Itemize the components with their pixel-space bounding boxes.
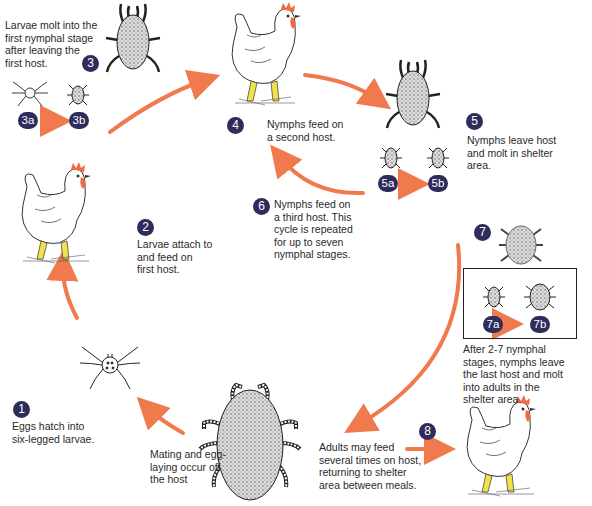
larva-icon-3a	[12, 82, 48, 106]
badge-3a: 3a	[18, 112, 38, 129]
nymph-icon-5a	[380, 148, 402, 168]
badge-7a: 7a	[483, 316, 503, 333]
chicken-icon-first-host	[22, 162, 91, 263]
badge-5b: 5b	[428, 175, 448, 192]
chicken-icon-second-host	[232, 2, 301, 105]
arrow-7-to-8	[358, 245, 459, 425]
arrow-5-to-6	[280, 157, 363, 193]
stage-6-text: Nymphs feed on a third host. This cycle …	[274, 198, 384, 261]
badge-8: 8	[419, 423, 436, 440]
badge-2: 2	[137, 219, 154, 236]
nymph-icon-large-5	[386, 60, 440, 128]
arrow-3-to-4	[110, 80, 205, 132]
stage-7-text: After 2-7 nymphal stages, nymphs leave t…	[463, 343, 591, 406]
nymph-icon-7	[499, 226, 543, 264]
badge-5: 5	[466, 113, 483, 130]
nymph-icon-3b	[67, 85, 89, 105]
badge-6: 6	[253, 198, 270, 215]
badge-4: 4	[227, 117, 244, 134]
stage-7-molt-box	[463, 268, 577, 339]
arrow-mating-to-1	[148, 408, 183, 433]
badge-7: 7	[474, 224, 491, 241]
stage-3-text: Larvae molt into the first nymphal stage…	[5, 19, 115, 69]
stage-1-text: Eggs hatch into six-legged larvae.	[12, 420, 132, 445]
nymph-icon-5b	[427, 148, 449, 168]
badge-7b: 7b	[530, 316, 550, 333]
stage-4-text: Nymphs feed on a second host.	[250, 118, 360, 143]
stage-8-text: Adults may feed several times on host, r…	[319, 441, 449, 491]
chicken-icon-adult-host	[467, 395, 536, 496]
mating-text: Mating and egg- laying occur off the hos…	[150, 448, 260, 486]
badge-5a: 5a	[378, 175, 398, 192]
larva-icon	[80, 347, 140, 389]
stage-2-text: Larvae attach to and feed on first host.	[137, 238, 247, 276]
badge-3b: 3b	[69, 112, 89, 129]
badge-1: 1	[13, 401, 30, 418]
arrow-1-to-2	[63, 265, 77, 318]
stage-5-text: Nymphs leave host and molt in shelter ar…	[467, 134, 587, 172]
arrow-4-to-5	[305, 75, 378, 100]
